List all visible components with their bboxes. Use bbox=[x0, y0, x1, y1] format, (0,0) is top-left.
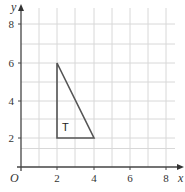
x-tick-label: 2 bbox=[54, 172, 60, 184]
coordinate-grid: 2 4 6 8 2 4 6 8 O x y T bbox=[0, 0, 185, 192]
x-tick-label: 8 bbox=[163, 172, 169, 184]
x-axis-arrow-icon bbox=[177, 164, 184, 170]
x-axis-label: x bbox=[177, 171, 184, 185]
y-tick-label: 4 bbox=[9, 95, 15, 107]
y-tick-label: 6 bbox=[9, 57, 15, 69]
y-tick-label: 8 bbox=[9, 18, 15, 30]
grid-lines bbox=[21, 8, 175, 167]
y-axis-arrow-icon bbox=[18, 4, 24, 11]
y-axis bbox=[18, 4, 24, 171]
origin-label: O bbox=[10, 171, 19, 185]
x-tick-label: 6 bbox=[127, 172, 133, 184]
x-tick-label: 4 bbox=[91, 172, 97, 184]
triangle-label: T bbox=[62, 121, 69, 133]
x-axis bbox=[17, 164, 184, 170]
y-axis-label: y bbox=[10, 0, 17, 14]
y-tick-label: 2 bbox=[9, 132, 15, 144]
